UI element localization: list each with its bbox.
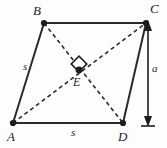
- vertex-dot-B: [41, 20, 47, 26]
- vertex-dot-A: [10, 120, 16, 126]
- vertex-dot-D: [120, 120, 126, 126]
- vertex-label-A: A: [7, 130, 15, 143]
- side-length-label-ad: s: [71, 127, 75, 138]
- side-length-label-ab: s: [23, 61, 27, 72]
- vertex-label-C: C: [150, 2, 159, 15]
- vertex-label-B: B: [33, 4, 41, 17]
- side-AB: [13, 23, 44, 123]
- vertex-label-D: D: [118, 130, 127, 143]
- side-CD: [123, 23, 146, 123]
- diagonal-BD: [44, 23, 123, 123]
- intersection-dot-E: [76, 67, 83, 74]
- height-label: a: [152, 63, 158, 74]
- figure-canvas: [0, 0, 167, 148]
- rhombus-figure: B C A D E s s a: [0, 0, 167, 148]
- intersection-label-E: E: [73, 76, 80, 88]
